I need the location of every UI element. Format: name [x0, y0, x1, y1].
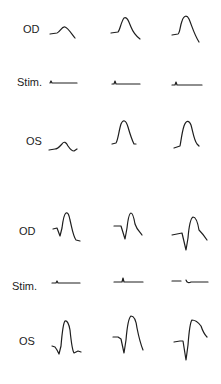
- panel2-stim-trace-1: [52, 281, 80, 283]
- panel2-stim-trace-2: [114, 278, 143, 282]
- panel2-od-traces: [53, 213, 207, 250]
- panel2-os-traces: [52, 316, 207, 360]
- panel1-od-trace-2: [111, 18, 140, 39]
- panel1-od-traces: [50, 16, 199, 42]
- panel1-stim-trace-1: [50, 81, 77, 83]
- panel1-stim-trace-2: [112, 81, 140, 84]
- panel1-os-trace-1: [49, 142, 77, 151]
- panel2-os-trace-3: [174, 320, 207, 360]
- panel1-os-trace-3: [174, 121, 199, 148]
- panel2-od-trace-1: [53, 213, 80, 241]
- waveform-traces: [0, 0, 221, 384]
- panel1-stim-traces: [50, 81, 202, 85]
- panel2-stim-traces: [52, 278, 208, 283]
- panel2-od-trace-2: [114, 213, 142, 239]
- panel2-od-trace-3: [172, 217, 207, 250]
- panel1-od-trace-3: [172, 16, 199, 42]
- panel1-od-trace-1: [50, 27, 75, 38]
- panel1-os-trace-2: [112, 121, 136, 144]
- panel2-stim-trace-3: [172, 280, 208, 283]
- panel2-os-trace-1: [52, 321, 81, 354]
- panel1-os-traces: [49, 121, 199, 151]
- panel1-stim-trace-3: [172, 82, 202, 85]
- panel2-os-trace-2: [113, 316, 143, 353]
